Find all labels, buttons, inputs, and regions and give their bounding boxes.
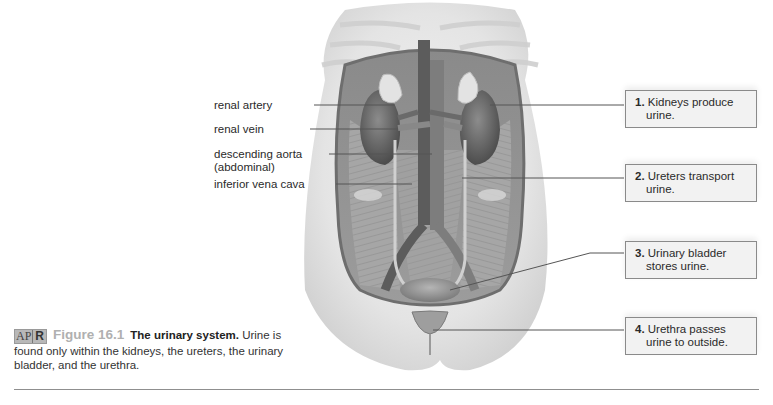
callout-text: Urethra passes xyxy=(648,323,726,335)
callout-number: 4. xyxy=(635,323,645,335)
callout-ureters: 2. Ureters transport urine. xyxy=(625,164,757,202)
figure-caption: APRFigure 16.1The urinary system. Urine … xyxy=(14,328,304,372)
bottom-rule-divider xyxy=(14,389,759,390)
callout-text: Ureters transport xyxy=(648,170,734,182)
figure-number: Figure 16.1 xyxy=(53,327,124,342)
callout-number: 2. xyxy=(635,170,645,182)
callout-text-line2: urine. xyxy=(635,183,748,196)
callout-kidneys: 1. Kidneys produce urine. xyxy=(625,90,757,128)
label-descending-aorta-sub: (abdominal) xyxy=(214,161,275,174)
apr-badge-icon: APR xyxy=(14,329,47,344)
callout-urethra: 4. Urethra passes urine to outside. xyxy=(625,317,757,355)
apr-badge-right: R xyxy=(32,330,46,343)
callout-text: Urinary bladder xyxy=(648,247,727,259)
label-renal-vein: renal vein xyxy=(214,123,264,136)
label-renal-artery: renal artery xyxy=(214,99,272,112)
callout-text-line2: stores urine. xyxy=(635,260,748,273)
apr-badge-left: AP xyxy=(15,330,32,343)
callout-text-line2: urine to outside. xyxy=(635,336,748,349)
callout-number: 1. xyxy=(635,96,645,108)
callout-number: 3. xyxy=(635,247,645,259)
label-inferior-vena-cava: inferior vena cava xyxy=(214,178,305,191)
figure-title: The urinary system. xyxy=(130,329,239,341)
callout-urinary-bladder: 3. Urinary bladder stores urine. xyxy=(625,241,757,279)
callout-text: Kidneys produce xyxy=(648,96,734,108)
label-descending-aorta: descending aorta xyxy=(214,148,302,161)
callout-text-line2: urine. xyxy=(635,109,748,122)
